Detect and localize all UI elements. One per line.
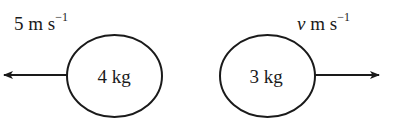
right-velocity-unit: m s	[310, 13, 337, 34]
left-velocity-value: 5	[14, 13, 24, 34]
right-body-mass-label: 3 kg	[226, 67, 306, 86]
right-velocity-exponent: −1	[337, 10, 350, 24]
left-velocity-exponent: −1	[55, 10, 68, 24]
right-velocity-value: v	[297, 13, 305, 34]
left-velocity-unit: m s	[28, 13, 55, 34]
left-velocity-label: 5 m s−1	[14, 14, 68, 33]
left-body-mass-label: 4 kg	[74, 67, 154, 86]
right-velocity-label: v m s−1	[297, 14, 350, 33]
